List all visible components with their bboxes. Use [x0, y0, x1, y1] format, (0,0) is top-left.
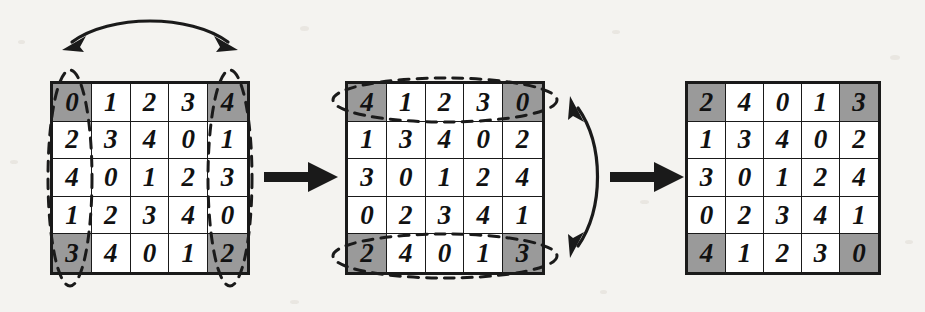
matrix-cell: 2 [802, 159, 840, 197]
matrix-cell: 3 [387, 122, 426, 160]
paper-speck [300, 26, 309, 31]
matrix-cell: 0 [840, 234, 878, 272]
matrix-cell: 3 [726, 122, 764, 160]
matrix-cell: 1 [348, 122, 387, 160]
arrow-middle-to-right [610, 162, 684, 192]
column-swapped-matrix: 4123013402301240234124013 [345, 81, 545, 275]
matrix-cell: 3 [464, 84, 503, 122]
matrix-cell: 0 [208, 197, 247, 235]
matrix-cell: 0 [92, 159, 131, 197]
paper-speck [600, 290, 607, 294]
paper-speck [18, 40, 25, 44]
matrix-cell: 3 [840, 84, 878, 122]
matrix-cell: 1 [92, 84, 131, 122]
matrix-cell: 3 [426, 197, 465, 235]
matrix-cell: 3 [688, 159, 726, 197]
matrix-cell: 2 [92, 197, 131, 235]
matrix-cell: 4 [764, 122, 802, 160]
matrix-cell: 1 [726, 234, 764, 272]
matrix-cell: 0 [426, 234, 465, 272]
matrix-cell: 1 [503, 197, 542, 235]
matrix-cell: 4 [464, 197, 503, 235]
matrix-cell: 3 [169, 84, 208, 122]
matrix-cell: 4 [426, 122, 465, 160]
matrix-cell: 0 [802, 122, 840, 160]
matrix-cell: 4 [348, 84, 387, 122]
column-swap-arrow-curve [72, 21, 228, 42]
matrix-cell: 1 [688, 122, 726, 160]
paper-speck [10, 160, 18, 164]
matrix-cell: 3 [503, 234, 542, 272]
matrix-cell: 2 [726, 197, 764, 235]
matrix-cell: 2 [840, 122, 878, 160]
matrix-cell: 1 [464, 234, 503, 272]
matrix-cell: 1 [764, 159, 802, 197]
paper-speck [640, 200, 649, 204]
matrix-cell: 4 [840, 159, 878, 197]
paper-speck [890, 55, 900, 60]
matrix-cell: 4 [53, 159, 92, 197]
matrix-cell: 4 [208, 84, 247, 122]
matrix-cell: 2 [208, 234, 247, 272]
matrix-cell: 1 [802, 84, 840, 122]
matrix-cell: 2 [503, 122, 542, 160]
matrix-cell: 1 [53, 197, 92, 235]
matrix-cell: 2 [688, 84, 726, 122]
paper-speck [612, 30, 620, 34]
row-swapped-matrix: 2401313402301240234141230 [685, 81, 881, 275]
matrix-cell: 2 [53, 122, 92, 160]
matrix-cell: 4 [726, 84, 764, 122]
matrix-cell: 3 [53, 234, 92, 272]
matrix-cell: 2 [348, 234, 387, 272]
matrix-cell: 1 [426, 159, 465, 197]
matrix-cell: 0 [387, 159, 426, 197]
column-swap-arrow-head-left [62, 36, 86, 52]
matrix-cell: 2 [131, 84, 170, 122]
matrix-cell: 2 [169, 159, 208, 197]
matrix-cell: 0 [131, 234, 170, 272]
matrix-cell: 3 [92, 122, 131, 160]
matrix-cell: 4 [131, 122, 170, 160]
figure-canvas: 0123423401401231234034012 41230134023012… [0, 0, 925, 312]
matrix-cell: 4 [92, 234, 131, 272]
matrix-cell: 1 [840, 197, 878, 235]
matrix-cell: 0 [503, 84, 542, 122]
matrix-cell: 1 [131, 159, 170, 197]
matrix-cell: 3 [348, 159, 387, 197]
row-swap-arrow-head-top [568, 96, 584, 122]
matrix-cell: 1 [387, 84, 426, 122]
matrix-cell: 3 [131, 197, 170, 235]
paper-speck [905, 240, 913, 244]
matrix-cell: 0 [53, 84, 92, 122]
row-swap-arrow-curve [578, 108, 598, 246]
matrix-cell: 0 [764, 84, 802, 122]
matrix-cell: 4 [387, 234, 426, 272]
matrix-cell: 0 [348, 197, 387, 235]
matrix-cell: 2 [464, 159, 503, 197]
matrix-cell: 4 [169, 197, 208, 235]
matrix-cell: 0 [169, 122, 208, 160]
matrix-cell: 0 [688, 197, 726, 235]
column-swap-arrow-head-right [214, 36, 238, 52]
matrix-cell: 4 [688, 234, 726, 272]
matrix-cell: 4 [503, 159, 542, 197]
matrix-cell: 0 [726, 159, 764, 197]
matrix-cell: 2 [764, 234, 802, 272]
matrix-cell: 0 [464, 122, 503, 160]
matrix-cell: 3 [764, 197, 802, 235]
matrix-cell: 3 [208, 159, 247, 197]
original-matrix: 0123423401401231234034012 [50, 81, 250, 275]
matrix-cell: 2 [426, 84, 465, 122]
paper-speck [290, 300, 299, 304]
matrix-cell: 1 [208, 122, 247, 160]
matrix-cell: 2 [387, 197, 426, 235]
row-swap-arrow-head-bottom [568, 232, 584, 258]
arrow-left-to-middle [264, 162, 338, 192]
matrix-cell: 1 [169, 234, 208, 272]
matrix-cell: 3 [802, 234, 840, 272]
matrix-cell: 4 [802, 197, 840, 235]
